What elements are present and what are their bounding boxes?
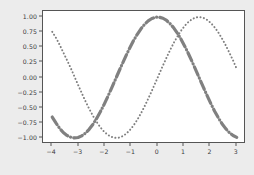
y-tick-label: 0.50 — [23, 43, 37, 50]
y-tick-label: −0.50 — [18, 103, 37, 110]
figure-canvas: 1.000.750.500.250.00−0.25−0.50−0.75−1.00… — [0, 0, 254, 175]
plot-axes — [42, 10, 245, 143]
x-tick-label: −3 — [73, 148, 82, 155]
y-tick-label: 0.00 — [23, 73, 37, 80]
series-line-0 — [52, 17, 237, 138]
y-tick-label: 0.25 — [23, 58, 37, 65]
x-tick-label: −2 — [99, 148, 108, 155]
x-tick-label: 0 — [155, 148, 159, 155]
x-tick-label: −4 — [47, 148, 56, 155]
series-line-1 — [52, 17, 237, 138]
y-tick-label: −1.00 — [18, 133, 37, 140]
y-tick-label: 1.00 — [23, 13, 37, 20]
x-tick-label: 3 — [234, 148, 238, 155]
x-tick-label: 2 — [207, 148, 211, 155]
y-tick-label: −0.25 — [18, 88, 37, 95]
y-tick-label: −0.75 — [18, 118, 37, 125]
x-tick-label: 1 — [181, 148, 185, 155]
x-tick-label: −1 — [126, 148, 135, 155]
plot-lines-svg — [43, 11, 246, 144]
y-tick-label: 0.75 — [23, 28, 37, 35]
